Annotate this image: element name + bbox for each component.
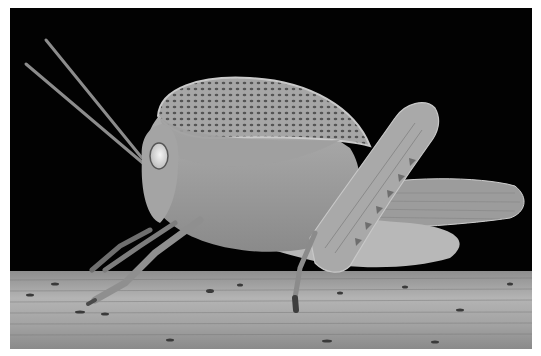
photograph (10, 8, 532, 349)
grasshopper-scene (10, 8, 532, 349)
antennae (26, 40, 144, 164)
wood-surface (10, 271, 532, 349)
eye (150, 143, 168, 169)
